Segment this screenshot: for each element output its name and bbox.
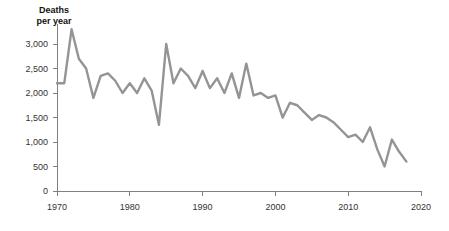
x-tick-label: 2020	[411, 202, 431, 212]
y-axis-tick-marks	[53, 44, 57, 191]
y-tick-label: 3,000	[25, 39, 48, 49]
y-tick-label: 2,000	[25, 88, 48, 98]
x-tick-label: 1980	[120, 202, 140, 212]
x-axis-tick-labels: 197019801990200020102020	[47, 202, 431, 212]
x-tick-label: 2010	[338, 202, 358, 212]
chart-container: Deaths per year 05001,0001,5002,0002,500…	[0, 0, 449, 231]
x-tick-label: 2000	[265, 202, 285, 212]
x-tick-label: 1970	[47, 202, 67, 212]
x-axis-tick-marks	[57, 191, 421, 196]
y-tick-label: 1,500	[25, 113, 48, 123]
y-axis-tick-labels: 05001,0001,5002,0002,5003,000	[25, 39, 48, 196]
y-tick-label: 0	[43, 186, 48, 196]
y-tick-label: 500	[33, 162, 48, 172]
deaths-per-year-series	[57, 29, 406, 166]
x-tick-label: 1990	[193, 202, 213, 212]
y-tick-label: 1,000	[25, 137, 48, 147]
line-chart-plot: 05001,0001,5002,0002,5003,000 1970198019…	[0, 0, 449, 231]
y-tick-label: 2,500	[25, 64, 48, 74]
